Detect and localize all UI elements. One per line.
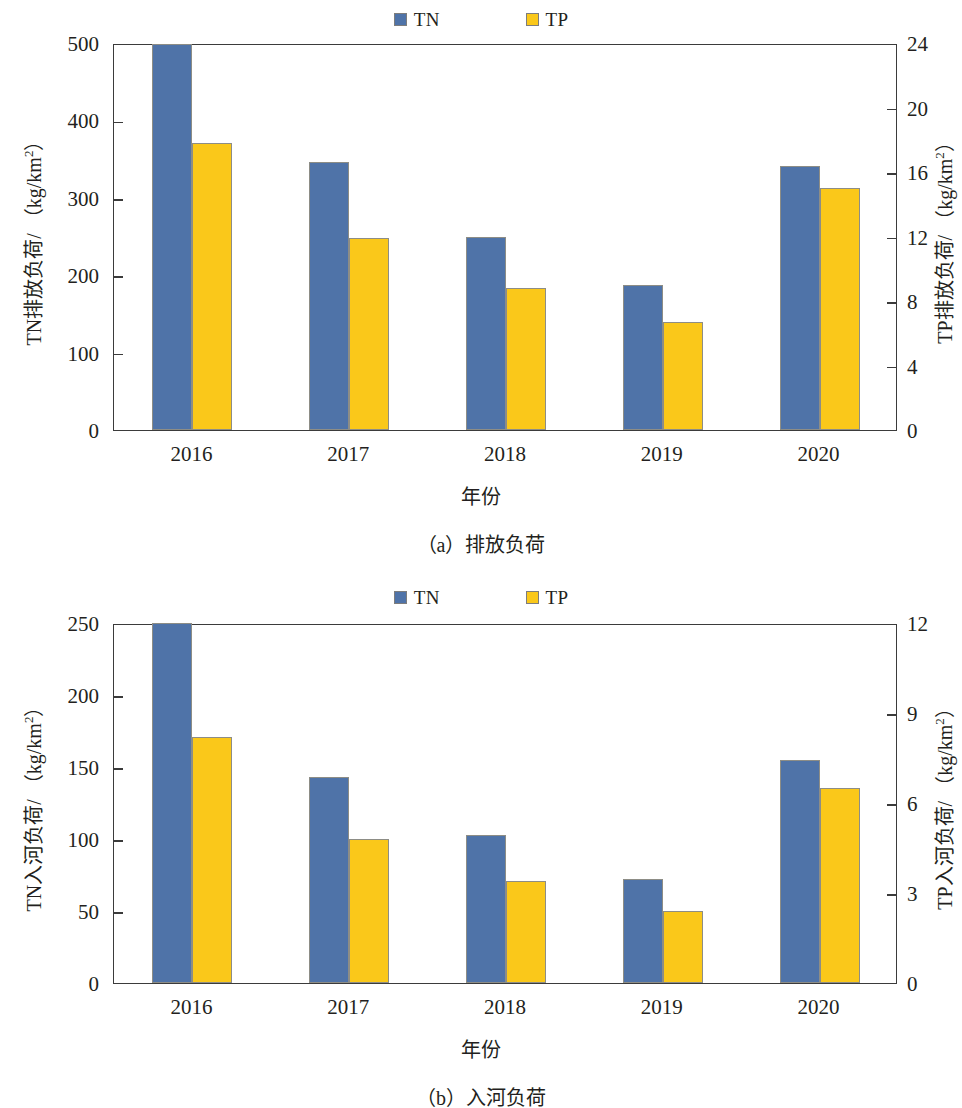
legend-square-blue <box>394 13 407 26</box>
left-axis-tick-label: 0 <box>21 974 99 995</box>
plot-area-panel-a <box>113 44 897 431</box>
x-axis-tick-labels-panel-a: 20162017201820192020 <box>113 444 897 470</box>
x-axis-tick-label: 2016 <box>170 997 212 1018</box>
right-axis-title-panel-a: TP排放负荷/ （kg/km2） <box>933 132 955 344</box>
legend-entry-tn: TN <box>394 588 440 607</box>
x-axis-tick-label: 2019 <box>641 444 683 465</box>
left-axis-tick <box>114 840 123 842</box>
legend-label: TP <box>546 10 569 29</box>
x-axis-tick-label: 2017 <box>327 444 369 465</box>
bar-group <box>466 45 546 430</box>
right-axis-tick <box>887 804 896 806</box>
left-axis-title-panel-b: TN入河负荷/ （kg/km2） <box>22 697 44 912</box>
x-axis-tick-label: 2018 <box>484 444 526 465</box>
legend-square-yellow <box>526 591 539 604</box>
bar-tn <box>780 760 820 983</box>
legend-label: TN <box>414 10 440 29</box>
bar-tn <box>309 777 349 983</box>
x-axis-tick-label: 2016 <box>170 444 212 465</box>
right-axis-tick <box>887 714 896 716</box>
left-axis-title-panel-a: TN排放负荷/ （kg/km2） <box>22 131 44 346</box>
left-axis-tick <box>114 122 123 124</box>
bar-group <box>623 625 703 983</box>
bar-tp <box>506 288 546 430</box>
x-axis-tick-label: 2019 <box>641 997 683 1018</box>
right-axis-tick-label: 24 <box>907 34 962 55</box>
panel-a: TNTP 0100200300400500 04812162024 TN排放负荷… <box>0 0 962 570</box>
bar-group <box>309 45 389 430</box>
x-axis-tick-labels-panel-b: 20162017201820192020 <box>113 997 897 1023</box>
legend-panel-b: TNTP <box>0 588 962 607</box>
right-axis-tick <box>887 109 896 111</box>
bar-tn <box>623 285 663 430</box>
bar-tp <box>349 839 389 983</box>
right-axis-tick-label: 20 <box>907 99 962 120</box>
left-axis-tick <box>114 199 123 201</box>
x-axis-title-panel-b: 年份 <box>0 1040 962 1060</box>
bar-tn <box>780 166 820 430</box>
right-axis-tick <box>887 894 896 896</box>
right-axis-tick <box>887 238 896 240</box>
bar-tn <box>309 162 349 430</box>
left-axis-tick <box>114 696 123 698</box>
legend-square-yellow <box>526 13 539 26</box>
legend-label: TN <box>414 588 440 607</box>
bar-tn <box>466 835 506 983</box>
left-axis-tick-label: 500 <box>21 34 99 55</box>
right-axis-title-panel-b: TP入河负荷/ （kg/km2） <box>933 698 955 910</box>
left-axis-tick-label: 250 <box>21 614 99 635</box>
bar-tn <box>466 237 506 430</box>
right-axis-tick-label: 12 <box>907 614 962 635</box>
bar-group <box>152 45 232 430</box>
legend-entry-tp: TP <box>526 588 569 607</box>
caption-panel-b: （b）入河负荷 <box>0 1088 962 1108</box>
bar-group <box>780 625 860 983</box>
bar-tn <box>623 879 663 983</box>
caption-panel-a: （a）排放负荷 <box>0 535 962 555</box>
right-axis-tick <box>887 302 896 304</box>
legend-panel-a: TNTP <box>0 10 962 29</box>
bar-tp <box>192 143 232 430</box>
bar-tp <box>820 188 860 430</box>
right-axis-tick-label: 4 <box>907 357 962 378</box>
x-axis-title-panel-a: 年份 <box>0 487 962 507</box>
right-axis-tick <box>887 367 896 369</box>
bar-group-container-panel-b <box>114 625 896 983</box>
x-axis-tick-label: 2020 <box>798 444 840 465</box>
bar-group <box>309 625 389 983</box>
legend-label: TP <box>546 588 569 607</box>
right-axis-tick-label: 0 <box>907 421 962 442</box>
right-axis-tick <box>887 173 896 175</box>
left-axis-tick <box>114 768 123 770</box>
legend-entry-tn: TN <box>394 10 440 29</box>
bar-tn <box>152 623 192 983</box>
x-axis-tick-label: 2017 <box>327 997 369 1018</box>
plot-area-panel-b <box>113 624 897 984</box>
panel-b: TNTP 050100150200250 036912 TN入河负荷/ （kg/… <box>0 578 962 1108</box>
bar-group-container-panel-a <box>114 45 896 430</box>
legend-entry-tp: TP <box>526 10 569 29</box>
left-axis-tick-label: 400 <box>21 111 99 132</box>
left-axis-tick <box>114 912 123 914</box>
right-axis-tick-label: 0 <box>907 974 962 995</box>
figure-root: TNTP 0100200300400500 04812162024 TN排放负荷… <box>0 0 962 1108</box>
left-axis-tick-label: 0 <box>21 421 99 442</box>
bar-tp <box>349 238 389 430</box>
bar-group <box>152 625 232 983</box>
bar-group <box>623 45 703 430</box>
bar-group <box>780 45 860 430</box>
left-axis-tick <box>114 354 123 356</box>
bar-tp <box>663 322 703 430</box>
x-axis-tick-label: 2018 <box>484 997 526 1018</box>
bar-tp <box>663 911 703 983</box>
legend-square-blue <box>394 591 407 604</box>
bar-tn <box>152 44 192 430</box>
left-axis-tick-label: 100 <box>21 344 99 365</box>
bar-group <box>466 625 546 983</box>
bar-tp <box>820 788 860 983</box>
bar-tp <box>506 881 546 983</box>
x-axis-tick-label: 2020 <box>798 997 840 1018</box>
left-axis-tick <box>114 276 123 278</box>
bar-tp <box>192 737 232 983</box>
